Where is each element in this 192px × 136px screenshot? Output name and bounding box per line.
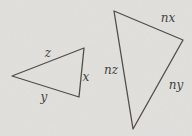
similar-triangles-figure: z x y nx nz ny (0, 0, 192, 136)
triangles-canvas: z x y nx nz ny (0, 0, 192, 136)
side-label-ny: ny (169, 78, 184, 92)
side-label-nz: nz (104, 63, 119, 77)
side-label-z: z (44, 46, 52, 60)
side-label-y: y (40, 90, 48, 104)
side-label-x: x (83, 70, 90, 84)
side-label-nx: nx (161, 11, 176, 25)
